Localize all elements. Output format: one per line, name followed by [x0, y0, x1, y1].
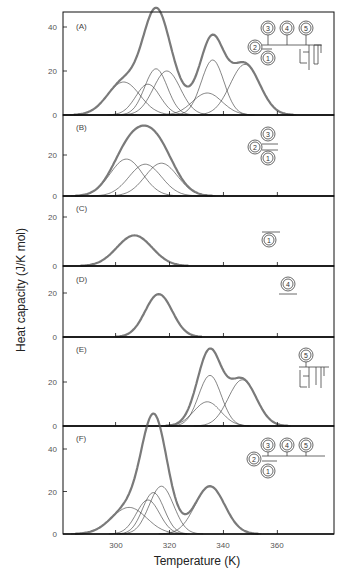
total-curve	[81, 235, 189, 265]
panel-frame	[63, 196, 334, 266]
y-axis-title: Heat capacity (J/K mol)	[14, 228, 28, 352]
x-tick-label-360: 360	[270, 541, 284, 550]
icon-f-num-2: 2	[252, 456, 256, 463]
panel-label-e: (E)	[76, 345, 87, 354]
icon-f-num-1: 1	[266, 468, 270, 475]
icon-d-num-4: 4	[286, 281, 290, 288]
panel-frame	[63, 266, 334, 337]
y-tick-label: 20	[48, 289, 57, 298]
panel-label-a: (A)	[76, 22, 87, 31]
icon-f-num-4: 4	[285, 442, 289, 449]
panel-label-c: (C)	[76, 204, 87, 213]
panel-label-f: (F)	[76, 434, 87, 443]
y-tick-label: 20	[48, 67, 57, 76]
y-tick-label: 0	[53, 422, 58, 431]
y-tick-label: 20	[48, 488, 57, 497]
icon-a-num-1: 1	[266, 55, 270, 62]
icon-f-num-3: 3	[266, 442, 270, 449]
icon-b-num-2: 2	[253, 144, 257, 151]
panel-frame	[63, 337, 334, 426]
total-curve	[166, 349, 289, 426]
total-curve	[75, 126, 213, 196]
icon-e-num-5: 5	[304, 352, 308, 359]
panel-f: 02040	[48, 414, 334, 540]
x-tick-label-300: 300	[109, 541, 123, 550]
icon-a-num-5: 5	[304, 25, 308, 32]
icon-b-num-3: 3	[266, 131, 270, 138]
component-curve	[71, 159, 182, 196]
component-curve	[194, 380, 291, 426]
panel-frame	[63, 115, 334, 196]
y-tick-label: 20	[48, 151, 57, 160]
total-curve	[75, 414, 258, 534]
icon-a-num-2: 2	[253, 44, 257, 51]
y-tick-label: 0	[53, 262, 58, 271]
panel-label-b: (B)	[76, 123, 87, 132]
total-curve	[116, 294, 202, 337]
panel-e: 020	[48, 337, 334, 431]
y-tick-label: 40	[48, 23, 57, 32]
y-tick-label: 0	[53, 111, 58, 120]
x-axis-title: Temperature (K)	[154, 554, 241, 568]
y-tick-label: 40	[48, 445, 57, 454]
total-curve	[74, 8, 294, 115]
x-tick-label-340: 340	[216, 541, 230, 550]
y-tick-label: 0	[53, 192, 58, 201]
component-curve	[108, 163, 216, 196]
icon-a-num-3: 3	[266, 25, 270, 32]
component-curve	[108, 84, 189, 115]
y-tick-label: 0	[53, 530, 58, 539]
panel-c: 020	[48, 196, 334, 271]
x-tick-label-320: 320	[163, 541, 177, 550]
component-curve	[194, 64, 296, 115]
icon-c-num-1: 1	[267, 237, 271, 244]
panel-b: 020	[48, 115, 334, 201]
figure: 0204002002002002002040 Heat capacity (J/…	[0, 0, 353, 579]
y-tick-label: 20	[48, 378, 57, 387]
y-tick-label: 0	[53, 333, 58, 342]
panel-label-d: (D)	[76, 275, 87, 284]
x-tick-labels: 300 320 340 360	[109, 541, 284, 550]
y-tick-label: 20	[48, 213, 57, 222]
icon-b-num-1: 1	[266, 155, 270, 162]
icon-f-num-5: 5	[304, 442, 308, 449]
component-curve	[174, 60, 252, 115]
component-curve	[160, 93, 254, 115]
domain-icon-c	[262, 232, 280, 247]
panels-group: 0204002002002002002040	[48, 8, 334, 539]
component-curve	[121, 71, 213, 115]
icon-a-num-4: 4	[285, 25, 289, 32]
component-curve	[117, 69, 195, 115]
